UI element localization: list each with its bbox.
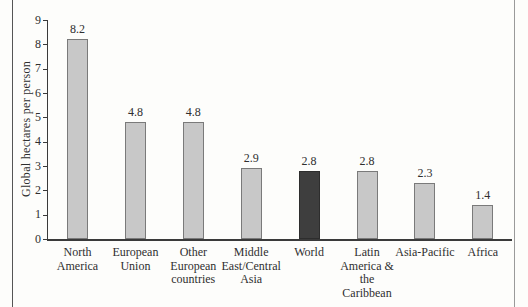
bar: [67, 39, 88, 239]
bar-value-label: 8.2: [70, 23, 85, 36]
y-tick: [43, 166, 47, 167]
y-tick: [43, 44, 47, 45]
y-tick-label: 8: [19, 38, 41, 51]
bar-value-label: 2.3: [417, 167, 432, 180]
y-tick-label: 5: [19, 111, 41, 124]
category-label: Latin America & the Caribbean: [340, 246, 394, 300]
bar-world-highlighted: [299, 171, 320, 239]
y-tick: [43, 215, 47, 216]
page-rule-right: [514, 0, 515, 307]
category-label: Middle East/Central Asia: [222, 246, 281, 287]
y-axis-line: [47, 20, 48, 239]
category-label: European Union: [112, 246, 158, 273]
y-tick: [43, 93, 47, 94]
y-tick-label: 6: [19, 87, 41, 100]
category-label: Asia-Pacific: [395, 246, 454, 260]
bar: [414, 183, 435, 239]
y-tick-label: 3: [19, 160, 41, 173]
y-tick-label: 0: [19, 233, 41, 246]
bar-value-label: 4.8: [186, 106, 201, 119]
bar: [125, 122, 146, 239]
y-tick: [43, 142, 47, 143]
bar: [183, 122, 204, 239]
category-label: North America: [57, 246, 98, 273]
bar-value-label: 2.9: [244, 152, 259, 165]
bar-value-label: 4.8: [128, 106, 143, 119]
bar: [357, 171, 378, 239]
y-tick: [43, 69, 47, 70]
bar-value-label: 2.8: [302, 155, 317, 168]
bar: [241, 168, 262, 239]
y-tick: [43, 190, 47, 191]
bar: [472, 205, 493, 239]
y-tick-label: 1: [19, 208, 41, 221]
x-axis-line: [47, 239, 512, 241]
category-label: Other European countries: [170, 246, 216, 287]
y-tick: [43, 239, 47, 240]
bar-value-label: 1.4: [475, 189, 490, 202]
category-label: Africa: [467, 246, 498, 260]
y-tick-label: 2: [19, 184, 41, 197]
category-label: World: [294, 246, 324, 260]
y-tick-label: 9: [19, 14, 41, 27]
bar-value-label: 2.8: [360, 155, 375, 168]
y-tick-label: 7: [19, 62, 41, 75]
y-tick: [43, 20, 47, 21]
y-tick-label: 4: [19, 135, 41, 148]
figure: Global hectares per person 01234567898.2…: [0, 0, 528, 307]
y-axis-title: Global hectares per person: [19, 61, 34, 197]
y-tick: [43, 117, 47, 118]
page-rule-left: [12, 0, 13, 307]
